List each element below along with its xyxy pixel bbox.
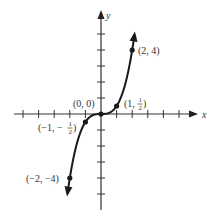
label-point-neg1-neghalf-main: (−1, − <box>38 122 63 134</box>
data-point <box>98 111 103 116</box>
label-point-1-half-close: ) <box>143 98 146 110</box>
label-point-2-4: (2, 4) <box>138 45 160 57</box>
x-axis-label: x <box>201 109 207 120</box>
cubic-function-graph: x y (2, 4) (1, 1 2 ) (0, 0) (−1, − 1 2 )… <box>0 0 216 218</box>
label-point-neg2-neg4: (−2, −4) <box>26 173 59 185</box>
data-point <box>114 103 119 108</box>
y-axis-label: y <box>105 10 111 21</box>
curve-arrow-down-icon <box>64 186 72 196</box>
label-point-1-half: (1, 1 2 ) <box>124 96 146 112</box>
x-axis-arrow-icon <box>189 111 198 118</box>
label-point-1-half-main: (1, <box>124 98 135 110</box>
label-point-neg1-neghalf-close: ) <box>73 122 76 134</box>
label-point-neg1-neghalf-num: 1 <box>69 120 73 128</box>
label-point-origin: (0, 0) <box>73 98 95 110</box>
data-point <box>130 47 135 52</box>
data-point <box>83 119 88 124</box>
label-point-neg1-neghalf-den: 2 <box>69 128 73 136</box>
y-axis-arrow-icon <box>98 10 105 19</box>
label-point-1-half-num: 1 <box>139 96 143 104</box>
data-point <box>67 175 72 180</box>
label-point-1-half-den: 2 <box>139 104 143 112</box>
curve-arrow-up-icon <box>130 32 138 42</box>
label-point-neg1-neghalf: (−1, − 1 2 ) <box>38 120 76 136</box>
